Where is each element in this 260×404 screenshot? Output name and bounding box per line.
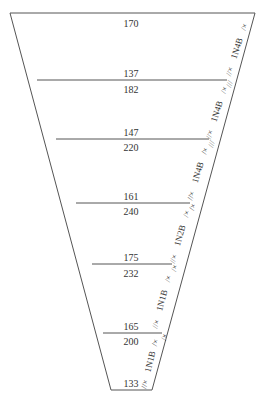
section-1-marks-bottom: //× (224, 66, 235, 77)
joint-mark-1: /// (224, 79, 235, 89)
joint-mark-5: /× (159, 333, 169, 342)
funnel-diagram: 170 137 182 147 220 161 240 175 232 165 … (0, 0, 260, 404)
section-1-marks-top: /× (239, 22, 250, 31)
section-5-edge-label-group: //× 1N1B /× (150, 274, 174, 329)
joint-mark-3: /× (187, 203, 198, 212)
section-1-top-value: 170 (124, 18, 139, 29)
section-4-edge-label: 1N2B (172, 224, 188, 247)
section-6-bottom-value: 133 (124, 378, 139, 389)
section-2-marks-bottom: //× (204, 129, 215, 140)
section-5-bottom-value: 165 (124, 321, 139, 332)
section-4-edge-label-group: //× 1N2B /× (167, 209, 192, 264)
section-3-marks-top: /× (200, 146, 211, 155)
section-2-edge-label-group: //× 1N4B /× (203, 85, 229, 140)
section-5-top-value: 232 (124, 268, 139, 279)
section-2-bottom-value: 147 (124, 127, 139, 138)
joint-mark-4: /× (169, 264, 180, 273)
section-4-top-value: 240 (124, 206, 139, 217)
section-2-top-value: 182 (124, 84, 139, 95)
section-5-marks-top: /× (163, 274, 173, 283)
section-3-marks-bottom: //× (186, 190, 197, 201)
section-6-marks-bottom: //× (139, 379, 150, 390)
section-4-marks-bottom: //× (168, 253, 179, 264)
section-3-bottom-value: 161 (124, 191, 139, 202)
section-2-edge-label: 1N4B (209, 99, 225, 123)
section-5-marks-bottom: //× (150, 319, 161, 330)
section-1-bottom-value: 137 (124, 68, 139, 79)
section-3-top-value: 220 (124, 142, 139, 153)
section-1-edge-label-group: //× 1N4B /× (223, 22, 249, 77)
section-1-edge-label: 1N4B (229, 36, 245, 60)
section-6-edge-label-group: //× 1N1B /× (138, 338, 160, 390)
section-4-bottom-value: 175 (124, 252, 139, 263)
section-6-top-value: 200 (124, 336, 139, 347)
section-3-edge-label: 1N4B (190, 161, 206, 184)
section-5-edge-label: 1N1B (154, 289, 169, 312)
section-6-edge-label: 1N1B (143, 350, 158, 373)
